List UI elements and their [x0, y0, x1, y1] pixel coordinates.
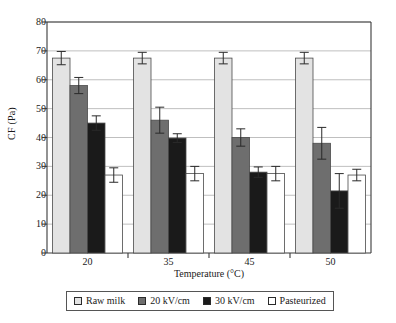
bar [215, 58, 233, 253]
bar [186, 174, 204, 253]
x-tick-label: 50 [326, 256, 336, 267]
chart-figure: CF (Pa) 80706050403020100 20354550 Tempe… [0, 0, 396, 323]
x-tick-label: 45 [245, 256, 255, 267]
legend-item: 20 kV/cm [138, 295, 190, 307]
bar [53, 58, 71, 253]
chart-legend: Raw milk20 kV/cm30 kV/cmPasteurized [66, 291, 334, 311]
bar [313, 143, 331, 253]
legend-item: 30 kV/cm [203, 295, 255, 307]
bar [267, 174, 285, 253]
x-tick-label: 20 [83, 256, 93, 267]
bar [105, 175, 123, 253]
bar [134, 58, 152, 253]
legend-label: Pasteurized [280, 295, 326, 307]
legend-label: Raw milk [86, 295, 125, 307]
bar [88, 123, 106, 253]
x-axis-title: Temperature (°C) [47, 268, 371, 279]
bar [169, 138, 187, 253]
x-tick-label: 35 [164, 256, 174, 267]
legend-swatch-icon [268, 297, 276, 305]
bar [296, 58, 314, 253]
legend-item: Raw milk [74, 295, 125, 307]
bar [70, 86, 88, 253]
legend-swatch-icon [138, 297, 146, 305]
bar [348, 175, 366, 253]
legend-label: 20 kV/cm [150, 295, 190, 307]
legend-label: 30 kV/cm [215, 295, 255, 307]
bar [232, 138, 250, 254]
legend-item: Pasteurized [268, 295, 326, 307]
legend-swatch-icon [74, 297, 82, 305]
legend-swatch-icon [203, 297, 211, 305]
bar [250, 172, 268, 253]
bar [151, 120, 169, 253]
